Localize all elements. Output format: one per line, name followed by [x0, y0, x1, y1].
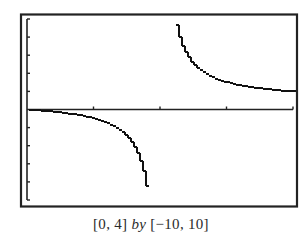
calculator-graph-window — [0, 0, 302, 212]
x-range: [0, 4] — [93, 216, 127, 232]
function-curve — [29, 25, 296, 186]
graph-frame — [21, 15, 297, 207]
window-caption: [0, 4] by [−10, 10] — [0, 216, 302, 233]
y-range: [−10, 10] — [150, 216, 209, 232]
by-label: by — [131, 216, 146, 232]
